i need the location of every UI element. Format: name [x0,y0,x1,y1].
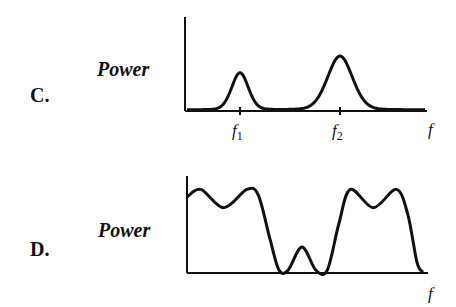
panel-d-x-axis-label: f [428,284,435,303]
panel-d-curve [187,188,423,274]
diagram-canvas: f1f2 f f [0,0,456,307]
panel-c-tick-label-1: f1 [232,121,243,143]
panel-c-curve [187,56,425,110]
panel-c-tick-label-2: f2 [332,121,343,143]
panel-c-x-axis-label: f [428,120,435,139]
